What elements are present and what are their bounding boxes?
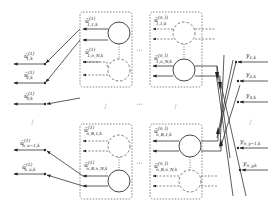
label-top: ũ(1)n_B,1,k [84,125,102,136]
svg-text:û(1)1,k: û(1)1,k [24,51,34,61]
horizontal-ellipsis: ⋯ [136,100,142,107]
neuron-solid [173,59,195,81]
svg-text:y3,k: y3,k [245,91,256,100]
vertical-ellipsis: ⋮ [247,118,253,125]
block-top-left: ũ(1)1,1,k ũ(1)1,n_N,k [80,12,132,87]
network-diagram: ũ(1)1,1,k ũ(1)1,n_N,k ũ(n_l)1,1,k ũ(n_l)… [0,0,277,208]
label-bottom: ũ(1)n_B,n_N,k [84,160,108,171]
block-bottom-left: ũ(1)n_B,1,k ũ(1)n_B,n_N,k [80,124,132,199]
wire [195,66,233,196]
svg-text:y2,k: y2,k [245,70,256,79]
label-top: ũ(n_l)n_B,1,k [154,126,172,137]
output-u3: û(1)3,k [14,91,80,105]
neuron-solid [179,135,201,157]
input-yny: yn_y,k [239,159,268,171]
neuron-dashed [108,59,130,81]
label-bottom: ũ(n_l)n_B,n_N,k [154,161,178,172]
label-bottom: ũ(1)1,n_N,k [85,47,104,58]
svg-text:û(1)3,k: û(1)3,k [24,91,34,101]
neuron-dashed [173,22,195,44]
right-inputs: y1,k y2,k y3,k ⋮ yn_y−1,k yn_y,k [235,51,268,171]
vertical-ellipsis: ⋮ [29,118,35,125]
svg-text:y1,k: y1,k [245,51,256,60]
block-output-dashed [83,62,108,66]
block-bottom-right: ũ(n_l)n_B,1,k ũ(n_l)n_B,n_N,k [150,124,217,199]
svg-text:yn_y,k: yn_y,k [242,159,257,168]
vertical-ellipsis: ⋮ [102,102,108,109]
label-bottom: ũ(n_l)1,n_N,k [154,53,172,64]
neuron-solid [108,170,130,192]
svg-text:û(1)n_u,k: û(1)n_u,k [22,162,36,172]
left-outputs: û(1)1,k û(1)2,k û(1)3,k ⋮ û(1)n_u−1,k û(… [14,29,83,186]
horizontal-ellipsis: ⋯ [136,46,142,53]
input-y3: y3,k [237,91,268,103]
input-y2: y2,k [237,70,268,82]
neuron-solid [108,22,130,44]
output-unu: û(1)n_u,k [14,162,83,186]
neuron-dashed [108,135,130,157]
input-yny-1: yn_y−1,k [237,137,268,149]
svg-text:û(1)2,k: û(1)2,k [24,70,34,80]
svg-text:û(1)n_u−1,k: û(1)n_u−1,k [20,138,40,148]
horizontal-ellipsis: ⋯ [136,159,142,166]
label-top: ũ(1)1,1,k [85,16,98,27]
svg-text:yn_y−1,k: yn_y−1,k [239,137,261,146]
output-u1: û(1)1,k [14,29,80,65]
vertical-ellipsis: ⋮ [172,102,178,109]
cross-connections [195,55,246,196]
label-top: ũ(n_l)1,1,k [154,15,168,26]
wire [217,66,230,158]
input-y1: y1,k [235,51,268,63]
neuron-dashed [179,170,201,192]
